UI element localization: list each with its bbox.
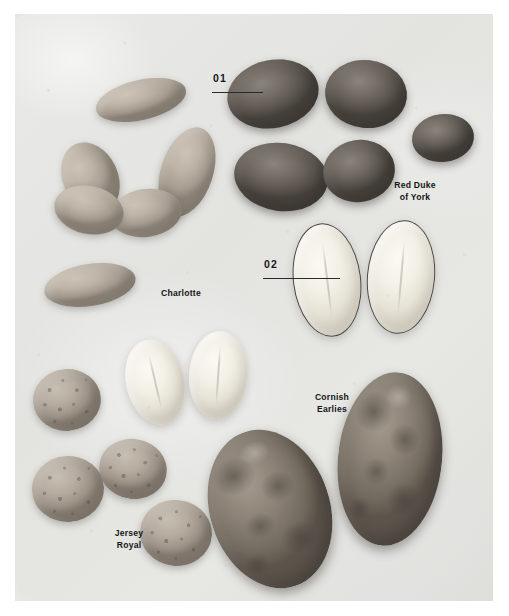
variety-label-cornish-earlies: Cornish Earlies xyxy=(296,392,368,415)
potato-charlotte xyxy=(41,257,138,313)
variety-label-line-1: Red Duke xyxy=(377,180,453,192)
potato-red-duke-of-york xyxy=(322,56,411,132)
potato-jersey-royal xyxy=(30,454,106,525)
potato-varieties-photograph: 01 02 Red Duke of York Charlotte Cornish… xyxy=(15,14,493,601)
annotation-number-01: 01 xyxy=(213,73,227,84)
variety-label-line-1: Jersey xyxy=(96,528,162,540)
potato-red-duke-of-york xyxy=(230,137,333,217)
variety-label-line-1: Cornish xyxy=(296,392,368,404)
potato-half-cut-face xyxy=(186,329,250,421)
variety-label-red-duke-of-york: Red Duke of York xyxy=(377,180,453,203)
annotation-number-02: 02 xyxy=(264,259,278,270)
variety-label-charlotte: Charlotte xyxy=(161,288,201,300)
potato-half-cut-face xyxy=(362,217,440,336)
potato-cornish-earlies xyxy=(188,413,352,601)
page-root: 01 02 Red Duke of York Charlotte Cornish… xyxy=(0,0,509,616)
annotation-leader-line-02 xyxy=(263,278,340,279)
annotation-leader-line-01 xyxy=(212,92,263,93)
variety-label-jersey-royal: Jersey Royal xyxy=(96,528,162,551)
variety-label-line-2: of York xyxy=(377,192,453,204)
variety-label-line-1: Charlotte xyxy=(161,288,201,300)
cut-flesh-vein xyxy=(397,239,405,315)
variety-label-line-2: Royal xyxy=(96,540,162,552)
variety-label-line-2: Earlies xyxy=(296,404,368,416)
potato-jersey-royal xyxy=(30,366,104,435)
potato-jersey-royal xyxy=(94,434,171,505)
potato-half-cut-face xyxy=(117,334,193,431)
potato-charlotte xyxy=(92,70,191,130)
cut-flesh-vein xyxy=(215,345,221,405)
potato-red-duke-of-york xyxy=(221,51,325,137)
cut-flesh-vein xyxy=(148,353,163,410)
potato-half-cut-face xyxy=(286,219,367,340)
cut-flesh-vein xyxy=(322,242,333,318)
potato-red-duke-of-york xyxy=(410,111,477,165)
